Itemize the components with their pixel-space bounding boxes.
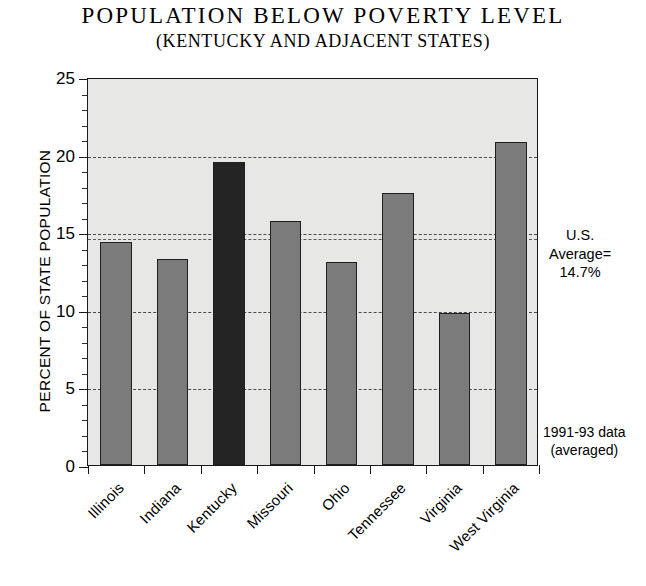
x-axis-tick (144, 465, 145, 474)
y-axis-minor-tick (82, 188, 88, 189)
x-axis-tick (426, 465, 427, 474)
y-axis-tick-label: 15 (56, 224, 75, 244)
x-axis-tick (314, 465, 315, 474)
plot-area: 0510152025 (87, 78, 538, 466)
y-axis-minor-tick (82, 420, 88, 421)
source-line2: (averaged) (543, 442, 626, 460)
y-axis-minor-tick (82, 250, 88, 251)
y-axis-minor-tick (82, 296, 88, 297)
y-axis-tick-label: 10 (56, 301, 75, 321)
x-axis-tick (257, 465, 258, 474)
bar (270, 221, 302, 465)
x-axis-tick-label: Tennessee (344, 479, 409, 544)
y-axis-major-tick (79, 467, 88, 468)
y-axis-major-tick (79, 389, 88, 390)
chart-subtitle: (KENTUCKY AND ADJACENT STATES) (0, 31, 646, 52)
y-axis-minor-tick (82, 281, 88, 282)
bar (326, 262, 358, 465)
x-axis-tick-label: Kentucky (183, 479, 240, 536)
x-axis-tick-label: Illinois (85, 479, 128, 522)
us-average-line3: 14.7% (549, 263, 611, 282)
bar (439, 313, 471, 465)
y-axis-minor-tick (82, 219, 88, 220)
chart-title: POPULATION BELOW POVERTY LEVEL (0, 3, 646, 29)
gridline (88, 157, 537, 158)
chart-figure: POPULATION BELOW POVERTY LEVEL (KENTUCKY… (0, 0, 646, 586)
x-axis-tick (201, 465, 202, 474)
y-axis-title: PERCENT OF STATE POPULATION (36, 91, 54, 471)
bar (157, 259, 189, 465)
x-axis-tick-label: Missouri (244, 479, 297, 532)
y-axis-minor-tick (82, 95, 88, 96)
y-axis-minor-tick (82, 141, 88, 142)
y-axis-minor-tick (82, 327, 88, 328)
bar (495, 142, 527, 465)
bar (100, 242, 132, 465)
y-axis-minor-tick (82, 405, 88, 406)
x-axis-tick-label: Virginia (417, 479, 465, 527)
y-axis-minor-tick (82, 451, 88, 452)
y-axis-minor-tick (82, 343, 88, 344)
y-axis-major-tick (79, 312, 88, 313)
y-axis-major-tick (79, 79, 88, 80)
y-axis-minor-tick (82, 436, 88, 437)
y-axis-minor-tick (82, 358, 88, 359)
source-line1: 1991-93 data (543, 424, 626, 442)
y-axis-tick-label: 5 (66, 379, 75, 399)
y-axis-minor-tick (82, 110, 88, 111)
bar (213, 162, 245, 465)
y-axis-minor-tick (82, 265, 88, 266)
bar (382, 193, 414, 465)
y-axis-minor-tick (82, 172, 88, 173)
source-annotation: 1991-93 data (averaged) (543, 424, 626, 460)
us-average-line1: U.S. (549, 226, 611, 245)
x-axis-tick-label: Indiana (136, 479, 184, 527)
x-axis-tick (88, 465, 89, 474)
y-axis-minor-tick (82, 126, 88, 127)
y-axis-major-tick (79, 157, 88, 158)
y-axis-tick-label: 25 (56, 69, 75, 89)
y-axis-minor-tick (82, 203, 88, 204)
x-axis-tick-label: Ohio (318, 479, 353, 514)
reference-line-us-average (88, 239, 537, 240)
x-axis-tick (539, 465, 540, 474)
y-axis-major-tick (79, 234, 88, 235)
gridline (88, 234, 537, 235)
us-average-annotation: U.S. Average= 14.7% (549, 226, 611, 282)
y-axis-tick-label: 20 (56, 146, 75, 166)
y-axis-minor-tick (82, 374, 88, 375)
us-average-line2: Average= (549, 245, 611, 264)
x-axis-tick (483, 465, 484, 474)
x-axis-tick (370, 465, 371, 474)
y-axis-tick-label: 0 (66, 457, 75, 477)
x-axis-tick-labels: IllinoisIndianaKentuckyMissouriOhioTenne… (87, 479, 538, 584)
